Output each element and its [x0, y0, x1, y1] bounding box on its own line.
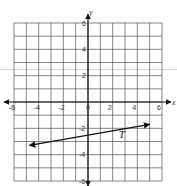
x-tick-label: 2	[108, 104, 112, 111]
axes	[4, 14, 171, 186]
x-tick-label: -6	[9, 104, 15, 111]
y-tick-label: -2	[79, 125, 85, 132]
x-tick-label: 6	[157, 104, 161, 111]
coordinate-plane: -6-4-20246642-2-4-6 x y T	[0, 0, 177, 186]
x-tick-label: 0	[86, 104, 90, 111]
y-tick-label: -6	[79, 178, 85, 185]
line-T	[29, 124, 149, 145]
x-tick-label: -2	[58, 104, 64, 111]
x-axis-label: x	[171, 98, 176, 107]
x-tick-label: -4	[34, 104, 40, 111]
line-label-T: T	[119, 128, 126, 140]
x-tick-label: 4	[132, 104, 136, 111]
y-tick-label: 2	[82, 72, 86, 79]
y-axis-label: y	[88, 8, 93, 17]
y-tick-label: 4	[82, 46, 86, 53]
y-tick-label: 6	[82, 20, 86, 27]
y-tick-label: -4	[79, 151, 85, 158]
